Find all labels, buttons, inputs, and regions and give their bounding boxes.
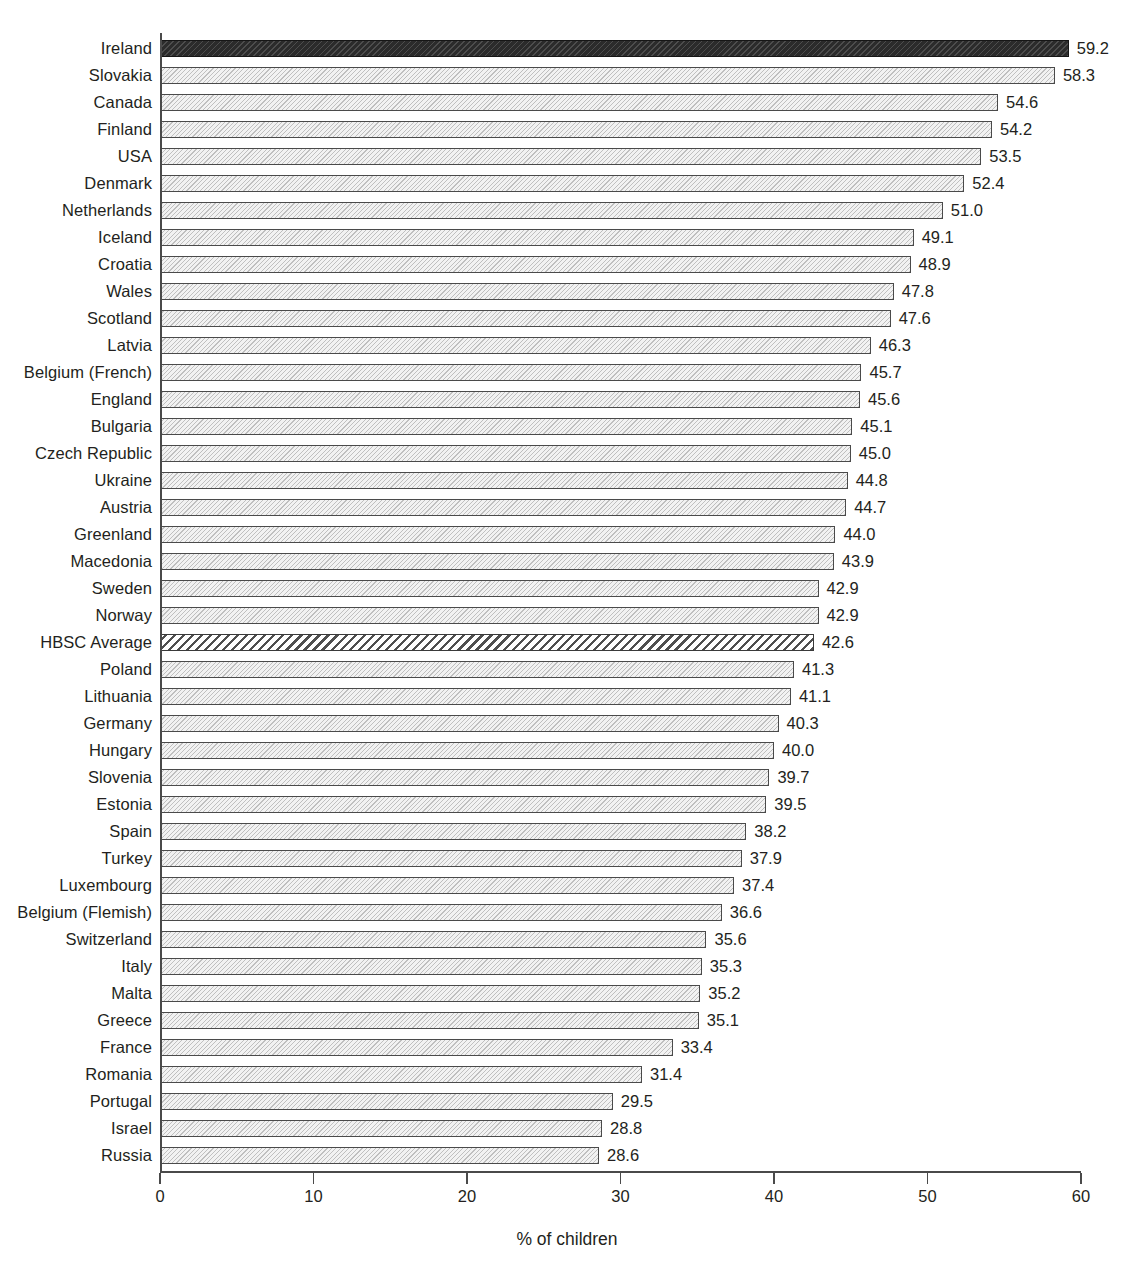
category-label-slovakia: Slovakia <box>89 62 152 89</box>
x-axis-tick-label: 60 <box>1072 1187 1090 1206</box>
category-label-england: England <box>91 386 152 413</box>
bar-row: Belgium (Flemish)36.6 <box>0 899 1134 926</box>
bar-row: Macedonia43.9 <box>0 548 1134 575</box>
category-label-iceland: Iceland <box>98 224 152 251</box>
bar-austria <box>160 499 846 516</box>
category-label-germany: Germany <box>83 710 152 737</box>
bar-belgium-french <box>160 364 861 381</box>
category-label-sweden: Sweden <box>92 575 152 602</box>
bar-row: England45.6 <box>0 386 1134 413</box>
bar-row: Slovenia39.7 <box>0 764 1134 791</box>
category-label-slovenia: Slovenia <box>88 764 152 791</box>
category-label-scotland: Scotland <box>87 305 152 332</box>
bar-ukraine <box>160 472 848 489</box>
bar-value-label: 51.0 <box>951 197 983 224</box>
bar-croatia <box>160 256 911 273</box>
x-axis-tick <box>159 1173 161 1184</box>
bar-macedonia <box>160 553 834 570</box>
x-axis-tick <box>927 1173 929 1184</box>
bar-slovakia <box>160 67 1055 84</box>
category-label-italy: Italy <box>121 953 152 980</box>
bar-row: Estonia39.5 <box>0 791 1134 818</box>
bar-value-label: 37.9 <box>750 845 782 872</box>
category-label-turkey: Turkey <box>102 845 152 872</box>
bar-value-label: 35.3 <box>710 953 742 980</box>
bar-row: Switzerland35.6 <box>0 926 1134 953</box>
category-label-estonia: Estonia <box>96 791 152 818</box>
bar-value-label: 37.4 <box>742 872 774 899</box>
bar-spain <box>160 823 746 840</box>
bar-value-label: 45.1 <box>860 413 892 440</box>
category-label-luxembourg: Luxembourg <box>59 872 152 899</box>
category-label-ireland: Ireland <box>101 35 152 62</box>
category-label-greece: Greece <box>97 1007 152 1034</box>
bar-value-label: 45.6 <box>868 386 900 413</box>
bar-wales <box>160 283 894 300</box>
bar-value-label: 42.9 <box>827 575 859 602</box>
x-axis-tick-label: 10 <box>304 1187 322 1206</box>
bar-malta <box>160 985 700 1002</box>
bar-row: Norway42.9 <box>0 602 1134 629</box>
bar-value-label: 33.4 <box>681 1034 713 1061</box>
bar-usa <box>160 148 981 165</box>
bar-row: Hungary40.0 <box>0 737 1134 764</box>
bar-row: Greenland44.0 <box>0 521 1134 548</box>
bar-chart: Ireland59.2Slovakia58.3Canada54.6Finland… <box>0 0 1134 1279</box>
bar-norway <box>160 607 819 624</box>
bar-row: Netherlands51.0 <box>0 197 1134 224</box>
bar-value-label: 29.5 <box>621 1088 653 1115</box>
category-label-macedonia: Macedonia <box>70 548 152 575</box>
bar-row: Ireland59.2 <box>0 35 1134 62</box>
bar-luxembourg <box>160 877 734 894</box>
bar-row: Romania31.4 <box>0 1061 1134 1088</box>
bar-row: Sweden42.9 <box>0 575 1134 602</box>
bar-value-label: 40.0 <box>782 737 814 764</box>
x-axis-tick-label: 50 <box>918 1187 936 1206</box>
bar-russia <box>160 1147 599 1164</box>
bar-value-label: 54.2 <box>1000 116 1032 143</box>
bar-hungary <box>160 742 774 759</box>
bar-row: Wales47.8 <box>0 278 1134 305</box>
bar-latvia <box>160 337 871 354</box>
bar-row: Malta35.2 <box>0 980 1134 1007</box>
bar-value-label: 38.2 <box>754 818 786 845</box>
bar-row: Iceland49.1 <box>0 224 1134 251</box>
bar-value-label: 44.8 <box>856 467 888 494</box>
category-label-latvia: Latvia <box>107 332 152 359</box>
category-label-austria: Austria <box>100 494 152 521</box>
category-label-czech-republic: Czech Republic <box>35 440 152 467</box>
bar-slovenia <box>160 769 769 786</box>
x-axis-tick-label: 0 <box>155 1187 164 1206</box>
bar-row: Scotland47.6 <box>0 305 1134 332</box>
bar-value-label: 49.1 <box>922 224 954 251</box>
x-axis-tick <box>620 1173 622 1184</box>
x-axis-tick-label: 40 <box>765 1187 783 1206</box>
bar-value-label: 35.1 <box>707 1007 739 1034</box>
category-label-israel: Israel <box>111 1115 152 1142</box>
bar-iceland <box>160 229 914 246</box>
category-label-bulgaria: Bulgaria <box>91 413 152 440</box>
bar-row: Austria44.7 <box>0 494 1134 521</box>
bar-row: Germany40.3 <box>0 710 1134 737</box>
bar-belgium-flemish <box>160 904 722 921</box>
category-label-netherlands: Netherlands <box>62 197 152 224</box>
bar-row: HBSC Average42.6 <box>0 629 1134 656</box>
bar-value-label: 44.0 <box>843 521 875 548</box>
category-label-ukraine: Ukraine <box>94 467 152 494</box>
bar-switzerland <box>160 931 706 948</box>
bar-value-label: 47.8 <box>902 278 934 305</box>
bar-row: Turkey37.9 <box>0 845 1134 872</box>
x-axis-tick-label: 20 <box>458 1187 476 1206</box>
bar-estonia <box>160 796 766 813</box>
bar-value-label: 59.2 <box>1077 35 1109 62</box>
bar-value-label: 28.6 <box>607 1142 639 1169</box>
category-label-greenland: Greenland <box>74 521 152 548</box>
bar-israel <box>160 1120 602 1137</box>
category-label-hungary: Hungary <box>89 737 152 764</box>
bar-denmark <box>160 175 964 192</box>
bar-row: Lithuania41.1 <box>0 683 1134 710</box>
bar-value-label: 43.9 <box>842 548 874 575</box>
bar-value-label: 41.3 <box>802 656 834 683</box>
bar-value-label: 53.5 <box>989 143 1021 170</box>
category-label-belgium-french: Belgium (French) <box>24 359 152 386</box>
